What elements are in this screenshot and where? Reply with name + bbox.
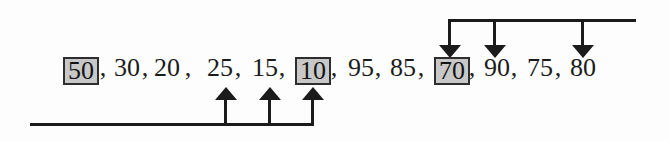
sequence-number: 20: [154, 55, 180, 81]
sequence-number-boxed: 50: [63, 57, 99, 85]
sequence-number: 25: [207, 55, 233, 81]
arrow-shaft: [268, 99, 271, 123]
arrow-shaft: [581, 19, 584, 46]
sequence-number: 90: [484, 55, 510, 81]
up-arrow-to-25: [215, 87, 237, 123]
sequence-number: 15: [252, 55, 278, 81]
separator: ,: [100, 55, 107, 81]
separator: ,: [418, 55, 425, 81]
separator: ,: [555, 55, 562, 81]
arrow-shaft: [448, 19, 451, 46]
bottom-scan-line: [30, 123, 314, 126]
separator: ,: [235, 55, 242, 81]
top-scan-line: [448, 19, 636, 22]
separator: ,: [511, 55, 518, 81]
separator: ,: [142, 55, 149, 81]
separator: ,: [375, 55, 382, 81]
sequence-number: 95: [348, 55, 374, 81]
down-arrow-to-70: [439, 19, 461, 58]
sequence-number: 85: [390, 55, 416, 81]
separator: ,: [331, 55, 338, 81]
arrow-shaft: [311, 99, 314, 123]
sequence-number-boxed: 70: [434, 57, 470, 85]
up-arrow-to-10: [302, 87, 324, 123]
separator: ,: [279, 55, 286, 81]
partition-scan-diagram: 50 , 30 , 20 , 25 , 15 , 10 , 95 , 85 , …: [0, 0, 669, 141]
separator: ,: [185, 55, 192, 81]
sequence-number: 30: [114, 55, 140, 81]
separator: ,: [469, 55, 476, 81]
up-arrow-to-15: [259, 87, 281, 123]
sequence-number: 80: [570, 55, 596, 81]
sequence-number: 75: [527, 55, 553, 81]
arrow-shaft: [493, 19, 496, 46]
sequence-number-boxed: 10: [295, 57, 331, 85]
arrow-shaft: [224, 99, 227, 123]
